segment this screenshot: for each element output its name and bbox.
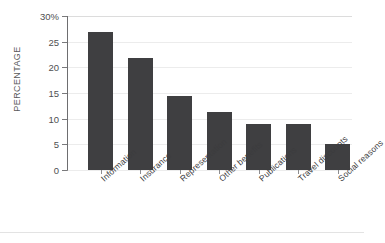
- x-axis-labels-group: InformationInsuranceRepresentationOther …: [67, 176, 357, 236]
- y-axis-tick: [62, 170, 67, 171]
- bottom-divider: [0, 232, 364, 233]
- y-axis-tick: [62, 42, 67, 43]
- y-axis-tick-label: 25: [48, 36, 59, 47]
- y-axis-tick-label: 20: [48, 62, 59, 73]
- y-axis-tick-label: 10: [48, 113, 59, 124]
- gridline: [68, 16, 352, 17]
- y-axis-tick-label: 15: [48, 88, 59, 99]
- y-axis-tick-label: 5: [54, 139, 59, 150]
- y-axis-title: PERCENTAGE: [12, 19, 22, 139]
- y-axis-tick-label: 0: [54, 165, 59, 176]
- y-axis-tick: [62, 93, 67, 94]
- y-axis-tick-label: 30%: [40, 11, 59, 22]
- y-axis-tick: [62, 16, 67, 17]
- y-axis-tick: [62, 119, 67, 120]
- bar: [88, 32, 113, 170]
- y-axis-tick: [62, 144, 67, 145]
- y-axis-tick: [62, 67, 67, 68]
